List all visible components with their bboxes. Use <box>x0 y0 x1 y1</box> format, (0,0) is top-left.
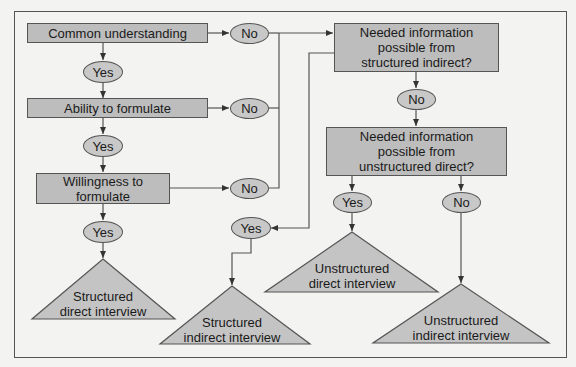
answer-yes-3: Yes <box>83 221 123 243</box>
decision-label: Common understanding <box>48 26 187 41</box>
answer-no-unstructured-direct: No <box>442 192 481 213</box>
decision-willingness-to-formulate: Willingness to formulate <box>36 173 170 204</box>
answer-yes-2: Yes <box>83 135 123 157</box>
answer-no-common-understanding: No <box>230 23 269 44</box>
answer-yes-structured-indirect: Yes <box>231 217 271 239</box>
outcome-unstructured-indirect: Unstructured indirect interview <box>413 313 510 343</box>
decision-common-understanding: Common understanding <box>27 23 208 43</box>
decision-unstructured-direct: Needed information possible from unstruc… <box>326 127 507 176</box>
answer-yes-1: Yes <box>83 61 123 83</box>
outcome-structured-indirect: Structured indirect interview <box>184 315 281 345</box>
decision-label: Ability to formulate <box>64 101 171 116</box>
answer-yes-unstructured-direct: Yes <box>333 192 372 213</box>
outcome-unstructured-direct: Unstructured direct interview <box>309 261 396 291</box>
answer-no-willingness: No <box>230 178 269 199</box>
answer-no-ability: No <box>230 98 269 119</box>
decision-structured-indirect: Needed information possible from structu… <box>334 23 499 72</box>
outcome-structured-direct: Structured direct interview <box>60 289 147 319</box>
decision-ability-to-formulate: Ability to formulate <box>27 98 208 118</box>
flowchart: Common understanding Yes Ability to form… <box>0 0 576 367</box>
answer-no-structured-indirect: No <box>397 89 436 110</box>
